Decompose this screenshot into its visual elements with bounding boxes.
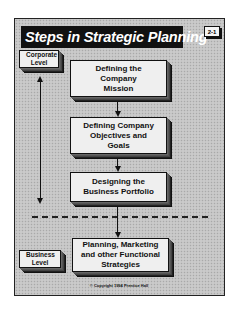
business-level-label: Business Level [19, 250, 61, 268]
connector-line [117, 207, 118, 235]
step-box-functional-strategies: Planning, Marketing and other Functional… [72, 238, 169, 272]
step-box-portfolio: Designing the Business Portfolio [70, 172, 167, 202]
step-box-mission: Defining the Company Mission [70, 60, 167, 97]
level-divider [32, 216, 208, 218]
copyright-text: © Copyright 1994 Prentice Hall [0, 283, 238, 288]
arrow-down-icon [37, 198, 43, 204]
step-label: Defining Company Objectives and Goals [79, 121, 159, 151]
step-box-objectives: Defining Company Objectives and Goals [70, 117, 167, 154]
business-level-text: Business Level [26, 251, 54, 267]
corporate-level-text: Corporate Level [26, 51, 52, 67]
step-label: Planning, Marketing and other Functional… [76, 240, 166, 270]
slide-number-badge: 2-1 [204, 26, 220, 37]
step-label: Defining the Company Mission [85, 64, 153, 94]
corporate-span-line [40, 80, 41, 200]
slide-title: Steps in Strategic Planning [21, 26, 183, 48]
step-label: Designing the Business Portfolio [79, 177, 159, 197]
corporate-level-label: Corporate Level [19, 50, 59, 68]
